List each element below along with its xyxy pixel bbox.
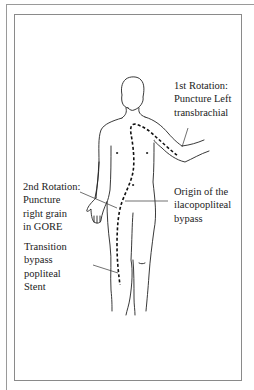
- left-arm-outer: [96, 162, 99, 198]
- label-line: Puncture Left: [174, 92, 231, 105]
- label-line: Transition: [24, 240, 67, 253]
- label-line: ilacopopliteal: [174, 198, 231, 211]
- label-line: transbrachial: [174, 106, 231, 119]
- left-leg-outer: [107, 202, 112, 311]
- label-line: bypass: [24, 253, 67, 266]
- torso-left-outline: [95, 118, 122, 198]
- knee-mark: [139, 263, 145, 264]
- label-line: popliteal: [24, 267, 67, 280]
- label-first-rotation: 1st Rotation: Puncture Left transbrachia…: [174, 79, 231, 119]
- torso-right-outline: [146, 143, 156, 311]
- right-arm-lower: [154, 140, 209, 162]
- chest-dot-right: [146, 152, 147, 153]
- label-line: right grain: [23, 207, 80, 220]
- label-line: 2nd Rotation:: [23, 180, 80, 193]
- label-line: bypass: [174, 212, 231, 225]
- label-line: 1st Rotation:: [174, 79, 231, 92]
- right-arm-upper: [145, 117, 204, 146]
- bypass-dashed-path: [117, 124, 177, 285]
- right-leg-inner: [133, 260, 135, 315]
- left-hand-fingers: [94, 216, 100, 223]
- left-arm-inner: [107, 146, 111, 202]
- neck-right: [139, 108, 145, 117]
- navel-dot: [132, 184, 133, 185]
- label-origin-bypass: Origin of the ilacopopliteal bypass: [174, 185, 231, 225]
- chest-dot-left: [116, 152, 117, 153]
- leader-transition-stent: [93, 265, 118, 273]
- label-line: Stent: [24, 280, 67, 293]
- label-transition-stent: Transition bypass popliteal Stent: [24, 240, 67, 293]
- head-outline: [121, 77, 143, 111]
- label-line: Puncture: [23, 193, 80, 206]
- label-line: Origin of the: [174, 185, 231, 198]
- leader-second-rotation: [80, 192, 117, 208]
- label-line: in GORE: [23, 220, 80, 233]
- neck-left: [122, 108, 126, 118]
- label-second-rotation: 2nd Rotation: Puncture right grain in GO…: [23, 180, 80, 233]
- leader-first-rotation: [182, 128, 188, 147]
- inner-leg-divider: [126, 213, 133, 315]
